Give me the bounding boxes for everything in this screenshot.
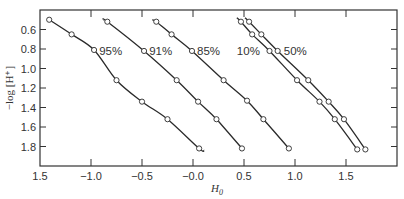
data-point-marker (355, 147, 360, 152)
data-point-marker (306, 78, 311, 83)
series-label: 91% (149, 45, 172, 57)
data-point-marker (238, 19, 243, 24)
data-point-marker (91, 47, 96, 52)
data-point-marker (247, 19, 252, 24)
data-point-marker (261, 117, 266, 122)
data-point-marker (169, 32, 174, 37)
series-label: 95% (99, 45, 122, 57)
y-axis-title: −log [H⁺] (3, 66, 15, 110)
data-point-marker (317, 99, 322, 104)
data-point-marker (294, 78, 299, 83)
y-tick-label: 1.4 (21, 102, 36, 114)
y-tick-label: 0.8 (21, 43, 36, 55)
x-tick-label: 1.5 (32, 170, 47, 182)
data-point-marker (363, 147, 368, 152)
data-point-marker (139, 99, 144, 104)
data-point-marker (69, 32, 74, 37)
data-point-marker (221, 78, 226, 83)
data-point-marker (341, 117, 346, 122)
series-label: 50% (284, 45, 307, 57)
data-point-marker (275, 48, 280, 53)
data-point-marker (326, 99, 331, 104)
x-tick-label: 1.5 (338, 170, 353, 182)
x-tick-label: −0.0 (182, 170, 204, 182)
data-point-marker (244, 98, 249, 103)
y-tick-label: 1.8 (21, 141, 36, 153)
data-point-marker (154, 19, 159, 24)
hammett-acidity-chart: 0.60.81.01.21.41.61.8 1.5−1.0−0.5−0.00.5… (0, 0, 404, 199)
x-tick-label: −0.5 (131, 170, 153, 182)
data-series (47, 17, 368, 152)
data-point-marker (174, 78, 179, 83)
data-point-marker (267, 48, 272, 53)
data-point-marker (259, 32, 264, 37)
x-tick-label: 1.0 (287, 170, 302, 182)
data-point-marker (197, 146, 202, 151)
x-axis-title: H0 (210, 182, 223, 197)
series-line (103, 19, 242, 149)
data-point-marker (286, 146, 291, 151)
data-point-marker (196, 99, 201, 104)
series-label: 10% (237, 45, 260, 57)
series-line (49, 20, 204, 152)
data-point-marker (189, 48, 194, 53)
data-point-marker (105, 19, 110, 24)
y-tick-label: 1.2 (21, 82, 36, 94)
data-point-marker (165, 117, 170, 122)
data-point-marker (332, 117, 337, 122)
plot-frame (40, 10, 397, 166)
data-point-marker (239, 146, 244, 151)
series-line (245, 18, 365, 150)
series-label: 85% (197, 45, 220, 57)
series-line (152, 20, 289, 149)
data-point-marker (214, 117, 219, 122)
y-axis-ticks: 0.60.81.01.21.41.61.8 (21, 24, 397, 153)
y-tick-label: 0.6 (21, 24, 36, 36)
series-line (237, 18, 357, 150)
data-point-marker (114, 78, 119, 83)
x-tick-label: −1.0 (80, 170, 102, 182)
data-point-marker (47, 17, 52, 22)
y-tick-label: 1.6 (21, 121, 36, 133)
data-point-marker (250, 32, 255, 37)
y-tick-label: 1.0 (21, 63, 36, 75)
x-tick-label: 0.5 (236, 170, 251, 182)
data-point-marker (141, 48, 146, 53)
